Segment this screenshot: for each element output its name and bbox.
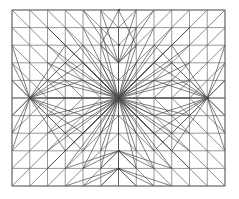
mesh-canvas [0,0,239,199]
mesh-singularity-node-top-center-upper [118,9,120,11]
mesh-singularity-node-top-center-lower [118,44,120,46]
mesh-singularity-node-bottom-center-lower [118,168,120,170]
mesh-singularity-node-left-mid [29,97,31,99]
mesh-singularity-node-bottom-center-upper [118,150,120,152]
mesh-singularity-node-right-mid [207,97,209,99]
mesh-singularity-node-center [118,97,120,99]
mesh-figure [0,0,239,199]
